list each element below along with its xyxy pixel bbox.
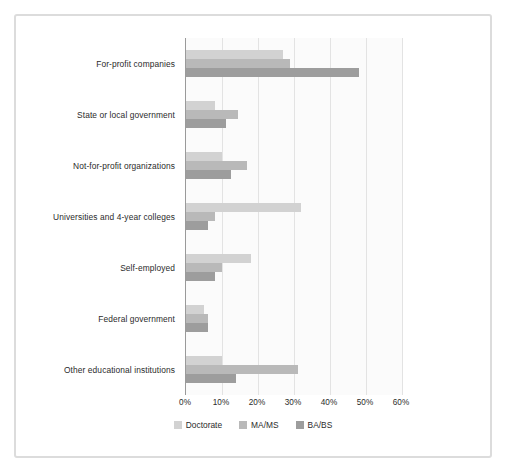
legend-item[interactable]: Doctorate (174, 420, 222, 430)
bar (186, 110, 238, 119)
bar-group (186, 305, 402, 332)
gridline (402, 38, 403, 395)
legend-swatch-icon (174, 421, 182, 429)
legend-label: BA/BS (308, 420, 333, 430)
bar-group (186, 152, 402, 179)
x-tick-label: 50% (357, 398, 373, 407)
bar (186, 305, 204, 314)
category-label: Other educational institutions (15, 365, 175, 375)
chart-legend: DoctorateMA/MSBA/BS (16, 420, 490, 430)
bar (186, 161, 247, 170)
bar (186, 254, 251, 263)
bar (186, 68, 359, 77)
x-tick-label: 20% (249, 398, 265, 407)
bar (186, 314, 208, 323)
category-label: Not-for-profit organizations (15, 161, 175, 171)
legend-item[interactable]: BA/BS (296, 420, 333, 430)
category-label: Federal government (15, 314, 175, 324)
legend-item[interactable]: MA/MS (239, 420, 278, 430)
bar (186, 263, 222, 272)
category-label: State or local government (15, 110, 175, 120)
category-label: Self-employed (15, 263, 175, 273)
bar (186, 374, 236, 383)
chart-frame: For-profit companiesState or local gover… (14, 14, 492, 458)
x-tick-label: 30% (285, 398, 301, 407)
bar (186, 203, 301, 212)
bar (186, 119, 226, 128)
category-label: For-profit companies (15, 59, 175, 69)
bar-group (186, 101, 402, 128)
legend-label: Doctorate (186, 420, 222, 430)
bar-group (186, 356, 402, 383)
bar (186, 101, 215, 110)
bar (186, 50, 283, 59)
plot-area (185, 38, 402, 395)
bar (186, 365, 298, 374)
bar (186, 59, 290, 68)
bar-group (186, 203, 402, 230)
bar (186, 272, 215, 281)
bar (186, 212, 215, 221)
legend-swatch-icon (239, 421, 247, 429)
x-axis-ticks: 0%10%20%30%40%50%60% (185, 398, 401, 412)
bar-group (186, 254, 402, 281)
bar (186, 356, 222, 365)
legend-label: MA/MS (251, 420, 278, 430)
legend-swatch-icon (296, 421, 304, 429)
x-tick-label: 10% (213, 398, 229, 407)
bar (186, 152, 222, 161)
category-axis: For-profit companiesState or local gover… (16, 38, 179, 395)
category-label: Universities and 4-year colleges (15, 212, 175, 222)
bar (186, 323, 208, 332)
x-tick-label: 60% (393, 398, 409, 407)
grouped-bar-chart: For-profit companiesState or local gover… (16, 16, 490, 456)
x-tick-label: 0% (179, 398, 191, 407)
bar-group (186, 50, 402, 77)
x-tick-label: 40% (321, 398, 337, 407)
bar (186, 221, 208, 230)
bar (186, 170, 231, 179)
